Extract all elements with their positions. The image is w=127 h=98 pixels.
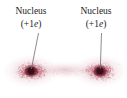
right-label-open: (+1 [86, 19, 100, 30]
figure-canvas: Nucleus (+1e) Nucleus (+1e) [0, 0, 127, 98]
right-label-line2: (+1e) [86, 19, 107, 30]
left-nucleus [28, 68, 34, 74]
right-label-close: ) [103, 19, 106, 30]
left-label-open: (+1 [21, 19, 35, 30]
left-label-line1: Nucleus [15, 6, 46, 16]
electron-cloud-figure: Nucleus (+1e) Nucleus (+1e) [0, 0, 127, 98]
left-label-close: ) [38, 19, 41, 30]
left-label-line2: (+1e) [21, 19, 42, 30]
right-label-line1: Nucleus [80, 6, 111, 16]
